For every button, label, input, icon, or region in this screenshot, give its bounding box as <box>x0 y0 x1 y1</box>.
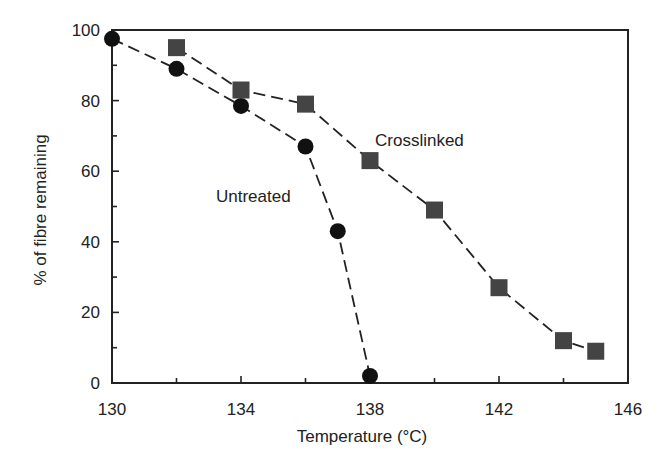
square-marker <box>426 202 443 219</box>
y-tick-label: 40 <box>81 233 100 252</box>
y-tick-label: 100 <box>72 21 100 40</box>
y-tick-label: 80 <box>81 92 100 111</box>
x-tick-label: 142 <box>485 400 513 419</box>
circle-marker <box>233 98 249 114</box>
square-marker <box>168 39 185 56</box>
circle-marker <box>298 138 314 154</box>
square-marker <box>233 82 250 99</box>
square-marker <box>362 152 379 169</box>
x-tick-label: 138 <box>356 400 384 419</box>
x-tick-labels: 130134138142146 <box>98 400 642 419</box>
square-marker <box>555 332 572 349</box>
x-axis-title: Temperature (°C) <box>297 427 428 446</box>
y-tick-label: 0 <box>91 374 100 393</box>
y-tick-labels: 020406080100 <box>72 21 100 393</box>
square-marker <box>587 343 604 360</box>
y-axis-title: % of fibre remaining <box>31 134 50 285</box>
x-tick-label: 146 <box>614 400 642 419</box>
series-lines <box>112 39 596 376</box>
untreated-series-label: Untreated <box>216 187 291 206</box>
series-markers <box>104 31 604 384</box>
circle-marker <box>104 31 120 47</box>
y-tick-label: 20 <box>81 303 100 322</box>
x-tick-label: 130 <box>98 400 126 419</box>
circle-marker <box>169 61 185 77</box>
y-tick-label: 60 <box>81 162 100 181</box>
crosslinked-series-label: Crosslinked <box>375 131 464 150</box>
x-tick-label: 134 <box>227 400 255 419</box>
square-marker <box>297 96 314 113</box>
chart: 130134138142146 020406080100 Temperature… <box>0 0 672 471</box>
circle-marker <box>362 368 378 384</box>
circle-marker <box>330 223 346 239</box>
square-marker <box>491 279 508 296</box>
